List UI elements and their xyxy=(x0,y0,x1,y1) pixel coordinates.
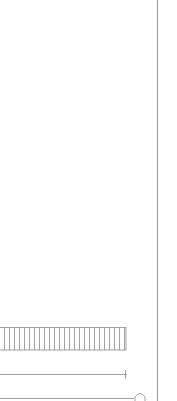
dimension-line xyxy=(0,370,127,379)
arc-icon xyxy=(135,394,145,401)
technical-drawing xyxy=(0,0,177,401)
hatched-bar xyxy=(0,328,126,351)
base-line xyxy=(0,394,145,401)
